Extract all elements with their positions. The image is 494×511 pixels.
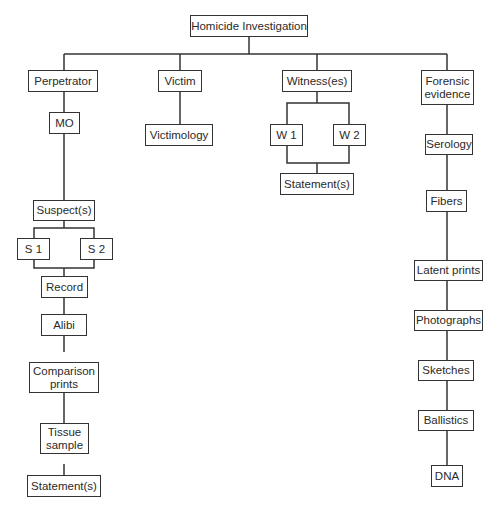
node-comparison-prints: Comparison prints xyxy=(29,362,99,393)
node-homicide-investigation: Homicide Investigation xyxy=(190,15,308,37)
node-record: Record xyxy=(41,276,88,298)
node-ballistics: Ballistics xyxy=(418,410,474,431)
node-dna: DNA xyxy=(431,465,463,487)
node-victimology: Victimology xyxy=(145,124,213,146)
node-alibi: Alibi xyxy=(41,314,87,336)
node-w1: W 1 xyxy=(270,124,303,146)
node-s1: S 1 xyxy=(17,238,50,260)
node-perpetrator: Perpetrator xyxy=(28,70,98,92)
node-latent-prints: Latent prints xyxy=(414,260,483,281)
node-w2: W 2 xyxy=(333,124,366,146)
node-fibers: Fibers xyxy=(426,190,467,212)
node-serology: Serology xyxy=(425,134,473,155)
node-suspects: Suspect(s) xyxy=(33,200,95,221)
node-tissue-sample: Tissue sample xyxy=(40,423,89,454)
node-perpetrator-statements: Statement(s) xyxy=(27,475,101,497)
node-photographs: Photographs xyxy=(414,310,483,331)
node-witnesses: Witness(es) xyxy=(282,70,352,92)
node-sketches: Sketches xyxy=(418,360,474,381)
node-mo: MO xyxy=(49,112,80,134)
node-victim: Victim xyxy=(158,70,202,92)
node-s2: S 2 xyxy=(80,238,113,260)
node-witness-statements: Statement(s) xyxy=(280,173,354,195)
node-forensic-evidence: Forensic evidence xyxy=(421,70,474,105)
